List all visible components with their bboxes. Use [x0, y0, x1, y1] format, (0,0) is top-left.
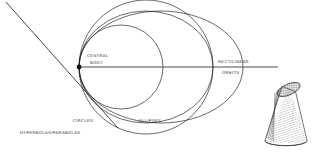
central-body-label-line2: BODY [90, 60, 103, 65]
cone-inset-illustration [265, 80, 307, 146]
hyperbolas-parabolas-label: HYPERBOLAS/PARABOLAS [20, 130, 80, 135]
hyperbola-parabola-line [6, 2, 118, 128]
rectilinear-orbits-label-line1: RECTILINEAR [218, 59, 249, 64]
rectilinear-orbits-label-line2: ORBITS [222, 70, 239, 75]
diagram-labels-group: CENTRAL BODY RECTILINEAR ORBITS CIRCLES … [20, 53, 249, 135]
central-body-label-line1: CENTRAL [87, 53, 109, 58]
orbit-curves-group [6, 0, 278, 134]
central-body-dot [77, 65, 82, 70]
orbit-diagram-figure: CENTRAL BODY RECTILINEAR ORBITS CIRCLES … [0, 0, 321, 154]
orbit-diagram-canvas: CENTRAL BODY RECTILINEAR ORBITS CIRCLES … [0, 0, 321, 154]
circles-label: CIRCLES [73, 118, 93, 123]
ellipses-label: ELLIPSES [139, 118, 161, 123]
